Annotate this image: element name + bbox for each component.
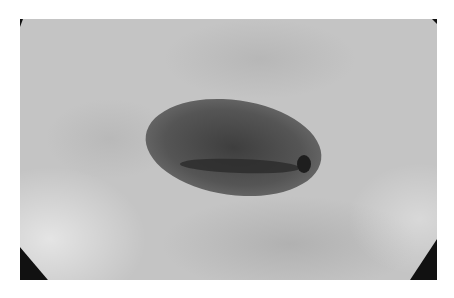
cell-dark-spot (297, 155, 311, 173)
micrograph (20, 19, 437, 280)
